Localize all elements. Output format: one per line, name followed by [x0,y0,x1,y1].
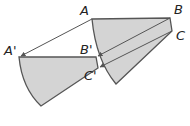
label-c: C [176,28,186,43]
label-c-prime: C' [84,68,97,83]
label-a-prime: A' [3,43,16,58]
label-b-prime: B' [80,42,93,57]
translation-diagram: A B C A' B' C' [0,0,190,126]
label-a: A [79,3,89,18]
label-b: B [174,2,183,17]
